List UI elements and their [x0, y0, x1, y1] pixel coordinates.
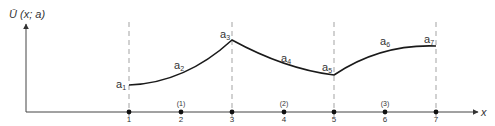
node-dot-5 [332, 110, 337, 115]
node-dot-4 [282, 110, 287, 115]
node-label-2: 2 [179, 115, 184, 124]
node-label-4: 4 [282, 115, 287, 124]
param-label-a6: a6 [380, 35, 390, 48]
node-dot-6 [383, 110, 388, 115]
node-label-3: 3 [230, 115, 235, 124]
param-label-a5: a5 [322, 61, 332, 74]
element-label-1: (1) [177, 100, 186, 108]
node-label-6: 6 [383, 115, 388, 124]
node-label-7: 7 [434, 115, 439, 124]
param-label-a3: a3 [220, 28, 230, 41]
node-dot-2 [179, 110, 184, 115]
node-dot-3 [230, 110, 235, 115]
piecewise-approximation-diagram: 1 2 3 4 5 6 7 (1) (2) (3) a1 a2 a3 a4 a5… [0, 0, 495, 126]
node-dot-7 [434, 110, 439, 115]
param-label-a2: a2 [174, 59, 184, 72]
node-label-5: 5 [332, 115, 337, 124]
element-label-3: (3) [381, 100, 390, 108]
node-dot-1 [127, 110, 132, 115]
y-axis-label: Ū (x; a) [9, 8, 45, 20]
param-label-a7: a7 [424, 33, 434, 46]
element-label-2: (2) [280, 100, 289, 108]
param-label-a4: a4 [281, 52, 291, 65]
node-label-1: 1 [127, 115, 132, 124]
x-axis-label: x [480, 106, 487, 118]
param-label-a1: a1 [116, 78, 126, 91]
